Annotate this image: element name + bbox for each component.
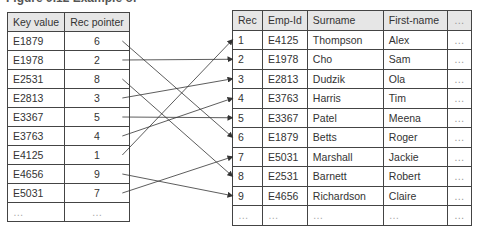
pointer-arrow (122, 41, 232, 137)
pointer-arrow (122, 40, 232, 155)
pointer-arrow (122, 79, 232, 98)
pointer-arrow (122, 79, 232, 176)
pointer-arrows (0, 0, 478, 228)
pointer-arrow (122, 174, 232, 196)
pointer-arrow (122, 157, 232, 193)
pointer-arrow (122, 59, 232, 60)
